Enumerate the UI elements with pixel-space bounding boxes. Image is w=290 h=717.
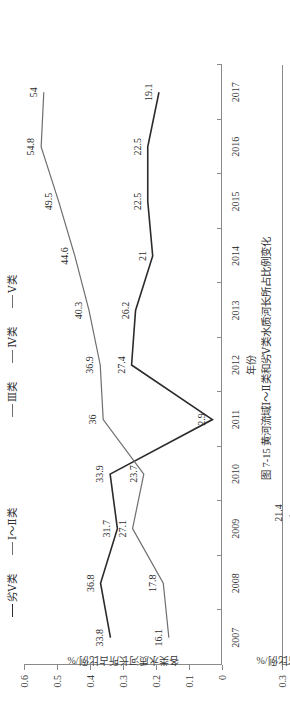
y-tick-label: 0.4: [85, 675, 96, 688]
figure2-y-tick: [282, 665, 283, 670]
data-label: 26.2: [119, 302, 130, 320]
legend-line-icon: [12, 295, 13, 308]
data-label: 22.5: [131, 138, 142, 156]
x-tick: [217, 64, 222, 65]
data-label: 2.9: [196, 413, 207, 426]
x-tick-label: 2012: [230, 355, 241, 375]
x-tick: [217, 119, 222, 120]
y-tick: [156, 665, 157, 670]
data-label: 33.9: [94, 465, 105, 483]
data-label: 31.7: [101, 520, 112, 538]
data-label: 54: [27, 87, 38, 97]
legend-label-class4: Ⅳ类: [7, 327, 18, 348]
legend-label-class5: Ⅴ类: [7, 275, 18, 293]
legend-item-class5[interactable]: Ⅴ类: [4, 275, 19, 308]
figure2-series-svg: [282, 65, 290, 665]
data-label: 21: [136, 251, 147, 261]
legend-line-icon: [12, 404, 13, 417]
figure2-partial: 各类水质河长所占比例/% 0.3 0.25 27.5 21.4: [282, 65, 290, 665]
x-tick: [217, 391, 222, 392]
legend-line-icon: [12, 604, 13, 617]
legend-label-class3: Ⅲ类: [7, 381, 18, 402]
series-line-1: [41, 92, 169, 637]
x-axis-title: 年份: [243, 355, 258, 375]
y-tick-label: 0.3: [118, 675, 129, 688]
legend-bottom: Ⅲ类 Ⅳ类 Ⅴ类: [4, 259, 19, 417]
legend-label-class1-2: Ⅰ～Ⅱ类: [7, 508, 18, 540]
legend-item-class3[interactable]: Ⅲ类: [4, 381, 19, 417]
x-tick-label: 2015: [230, 191, 241, 211]
data-label: 54.8: [25, 138, 36, 156]
data-label: 36.9: [84, 356, 95, 374]
x-tick-label: 2008: [230, 573, 241, 593]
y-tick-label: 0.2: [151, 675, 162, 688]
x-tick-label: 2014: [230, 246, 241, 266]
legend-line-icon: [12, 542, 13, 555]
data-label: 49.5: [42, 193, 53, 211]
y-tick: [222, 665, 223, 670]
data-label: 23.7: [127, 465, 138, 483]
y-tick-label: 0.1: [184, 675, 195, 688]
data-label: 40.3: [73, 302, 84, 320]
data-label: 22.5: [131, 193, 142, 211]
data-label: 36: [87, 415, 98, 425]
x-tick: [217, 500, 222, 501]
figure-caption: 图 7-15 黄河流域Ⅰ～Ⅱ类和劣Ⅴ类水质河长所占比例变化: [258, 0, 273, 717]
x-tick: [217, 446, 222, 447]
y-tick-label: 0.6: [19, 675, 30, 688]
y-tick: [189, 665, 190, 670]
data-label: 33.8: [94, 629, 105, 647]
x-tick: [217, 173, 222, 174]
figure2-y-tick-label: 0.3: [277, 675, 288, 688]
y-tick: [57, 665, 58, 670]
x-tick: [217, 337, 222, 338]
legend-item-class4[interactable]: Ⅳ类: [4, 327, 19, 363]
data-label: 27.1: [116, 520, 127, 538]
y-tick: [90, 665, 91, 670]
x-tick-label: 2007: [230, 628, 241, 648]
y-tick-label: 0.5: [52, 675, 63, 688]
x-tick-label: 2013: [230, 300, 241, 320]
y-tick: [123, 665, 124, 670]
x-tick: [217, 555, 222, 556]
x-tick: [217, 282, 222, 283]
figure-page: 劣Ⅴ类 Ⅰ～Ⅱ类 Ⅲ类 Ⅳ类 Ⅴ类 各类水质河长所占比例/% 年份 20072: [0, 0, 290, 717]
x-tick-label: 2010: [230, 464, 241, 484]
x-tick: [217, 609, 222, 610]
legend-label-liev: 劣Ⅴ类: [7, 574, 18, 602]
data-label: 36.8: [84, 574, 95, 592]
data-label: 27.4: [115, 356, 126, 374]
x-tick-label: 2016: [230, 137, 241, 157]
data-label: 17.8: [147, 574, 158, 592]
x-tick-label: 2011: [230, 410, 241, 430]
x-tick: [217, 228, 222, 229]
data-label: 16.1: [152, 629, 163, 647]
rotated-page-container: 劣Ⅴ类 Ⅰ～Ⅱ类 Ⅲ类 Ⅳ类 Ⅴ类 各类水质河长所占比例/% 年份 20072: [0, 0, 290, 717]
x-tick-label: 2017: [230, 82, 241, 102]
legend-item-class1-2[interactable]: Ⅰ～Ⅱ类: [4, 508, 19, 555]
data-label: 44.6: [58, 247, 69, 265]
chart-plot-area: 各类水质河长所占比例/% 年份 200720082009201020112012…: [24, 65, 222, 665]
x-tick-label: 2009: [230, 519, 241, 539]
legend-line-icon: [12, 350, 13, 363]
legend-item-liev[interactable]: 劣Ⅴ类: [4, 574, 19, 617]
y-tick: [24, 665, 25, 670]
y-tick-label: 0: [217, 675, 228, 680]
legend-top: 劣Ⅴ类 Ⅰ～Ⅱ类: [4, 492, 19, 617]
data-label: 19.1: [142, 84, 153, 102]
